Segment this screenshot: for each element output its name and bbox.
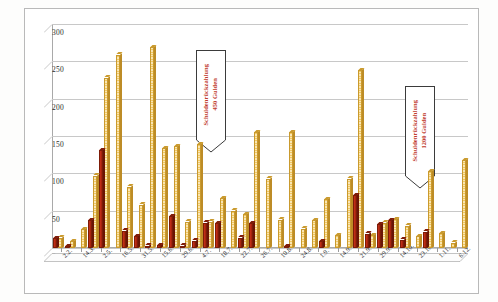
bar-face <box>197 144 201 248</box>
bar-side <box>126 229 128 248</box>
bar-side <box>212 220 214 248</box>
bar-side <box>282 217 284 248</box>
bar-schock-groschen <box>451 243 455 248</box>
bar-face <box>365 234 369 248</box>
x-axis-labels: 2.2.14.3.2.5.16.5.31.5.15.6.29.6.4.7.18.… <box>44 252 468 292</box>
x-axis-tick <box>180 248 181 252</box>
bar-schock-groschen <box>278 220 282 248</box>
bar-side <box>173 214 175 248</box>
bar-side <box>201 142 203 248</box>
bar-gulden <box>377 224 381 248</box>
bar-face <box>266 179 270 248</box>
bar-face <box>53 238 57 248</box>
bar-side <box>293 130 295 248</box>
bar-face <box>289 132 293 248</box>
bar-side <box>189 220 191 248</box>
bar-gulden <box>215 223 219 248</box>
bar-side <box>443 231 445 248</box>
bar-side <box>154 45 156 248</box>
bar-side <box>247 212 249 248</box>
bar-gulden <box>88 220 92 248</box>
bar-side <box>381 222 383 248</box>
bar-schock-groschen <box>150 47 154 248</box>
bar-gulden <box>284 247 288 248</box>
x-axis-tick <box>398 248 399 252</box>
bar-gulden <box>203 223 207 248</box>
bar-side <box>351 176 353 248</box>
bar-schock-groschen <box>312 220 316 248</box>
bar-gulden <box>423 232 427 248</box>
bar-face <box>439 233 443 248</box>
bar-gulden <box>192 241 196 248</box>
bar-side <box>103 148 105 248</box>
bar-face <box>388 220 392 248</box>
bar-gulden <box>353 195 357 248</box>
bar-side <box>258 130 260 248</box>
chart-root: Gulden Schock Groschen 05010015020025030… <box>0 0 498 302</box>
bar-side <box>328 197 330 248</box>
bar-side <box>392 218 394 248</box>
bar-side <box>397 217 399 248</box>
bar-gulden <box>180 246 184 248</box>
annotation-body-1200: Schuldenrückzahlung 1200 Gulden <box>405 86 435 174</box>
bar-face <box>319 241 323 248</box>
bar-face <box>215 223 219 248</box>
bar-gulden <box>365 234 369 248</box>
bar-gulden <box>238 238 242 248</box>
bar-side <box>207 220 209 248</box>
bar-face <box>238 238 242 248</box>
bar-face <box>353 195 357 248</box>
bar-schock-groschen <box>231 211 235 248</box>
bar-gulden <box>249 223 253 248</box>
bar-side <box>374 233 376 248</box>
bar-face <box>278 220 282 248</box>
bar-face <box>203 223 207 248</box>
bar-face <box>145 246 149 248</box>
annotation-text-450: Schuldenrückzahlung 450 Gulden <box>202 64 219 126</box>
bar-face <box>169 216 173 248</box>
bar-schock-groschen <box>439 233 443 248</box>
bar-side <box>131 185 133 248</box>
bar-face <box>347 179 351 248</box>
bar-gulden <box>319 241 323 248</box>
bar-gulden <box>122 231 126 248</box>
bar-gulden <box>134 236 138 248</box>
bar-side <box>316 218 318 248</box>
plot-area: 050100150200250300 Schuldenrückzahlung 4… <box>44 24 468 256</box>
bar-face <box>122 231 126 248</box>
bar-side <box>62 235 64 248</box>
bar-side <box>369 232 371 248</box>
bar-side <box>219 221 221 248</box>
bar-face <box>249 223 253 248</box>
bar-side <box>85 227 87 248</box>
bar-side <box>339 233 341 248</box>
bar-schock-groschen <box>335 235 339 248</box>
bar-gulden <box>169 216 173 248</box>
x-axis-tick <box>101 248 102 252</box>
bar-gulden <box>400 240 404 248</box>
bar-gulden <box>65 247 69 248</box>
bar-face <box>81 229 85 248</box>
bar-face <box>400 240 404 248</box>
bar-face <box>462 160 466 248</box>
bar-schock-groschen <box>301 229 305 248</box>
bar-face <box>99 150 103 248</box>
x-axis-tick <box>299 248 300 252</box>
bar-gulden <box>388 220 392 248</box>
bar-side <box>108 76 110 248</box>
bar-face <box>192 241 196 248</box>
annotation-body-450: Schuldenrückzahlung 450 Gulden <box>196 50 226 138</box>
bar-face <box>312 220 316 248</box>
annotation-text-1200: Schuldenrückzahlung 1200 Gulden <box>411 100 428 162</box>
bar-side <box>270 176 272 248</box>
bar-side <box>97 173 99 248</box>
bar-face <box>451 243 455 248</box>
bar-gulden <box>99 150 103 248</box>
bar-face <box>377 224 381 248</box>
bar-side <box>432 169 434 248</box>
bar-face <box>180 246 184 248</box>
bar-schock-groschen <box>462 160 466 248</box>
bar-side <box>178 144 180 248</box>
bar-side <box>305 226 307 248</box>
bar-schock-groschen <box>116 55 120 248</box>
